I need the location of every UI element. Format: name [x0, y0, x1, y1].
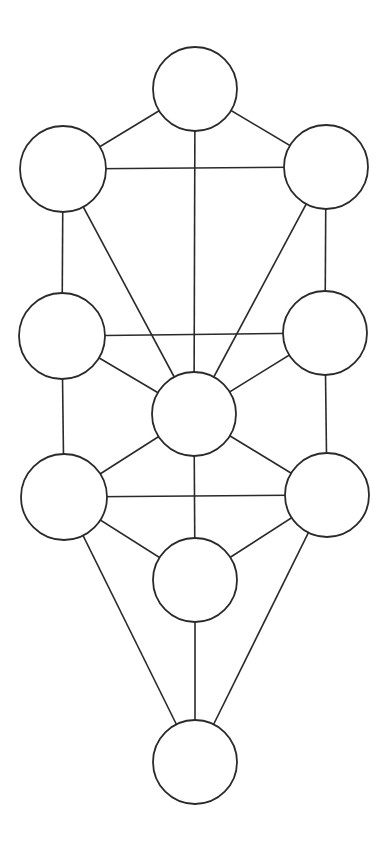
edge-n7-n10	[195, 495, 327, 762]
node-circle-n8	[21, 454, 107, 540]
node-circle-n6	[152, 372, 236, 456]
node-circle-n4	[283, 291, 367, 375]
node-circle-n2	[284, 125, 368, 209]
node-circle-n10	[153, 720, 237, 804]
edge-n1-n6	[194, 89, 195, 414]
node-circle-n1	[153, 47, 237, 131]
node-circle-n3	[20, 126, 106, 212]
edge-n8-n10	[64, 497, 195, 762]
node-circle-n9	[153, 538, 237, 622]
tree-diagram	[0, 0, 391, 848]
node-circle-n5	[19, 293, 105, 379]
node-circle-n7	[285, 453, 369, 537]
